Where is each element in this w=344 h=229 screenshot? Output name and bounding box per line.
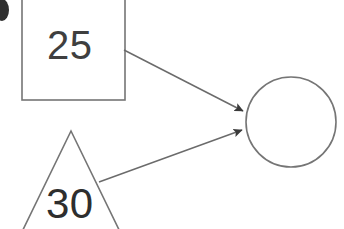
square-node-label: 25 [47, 25, 93, 65]
triangle-node-label: 30 [46, 183, 94, 225]
circle-node [246, 77, 336, 167]
corner-dot-icon [0, 0, 9, 21]
edge-square-to-circle [124, 50, 243, 111]
edge-triangle-to-circle [99, 130, 242, 182]
diagram-canvas: 25 30 [0, 0, 344, 229]
